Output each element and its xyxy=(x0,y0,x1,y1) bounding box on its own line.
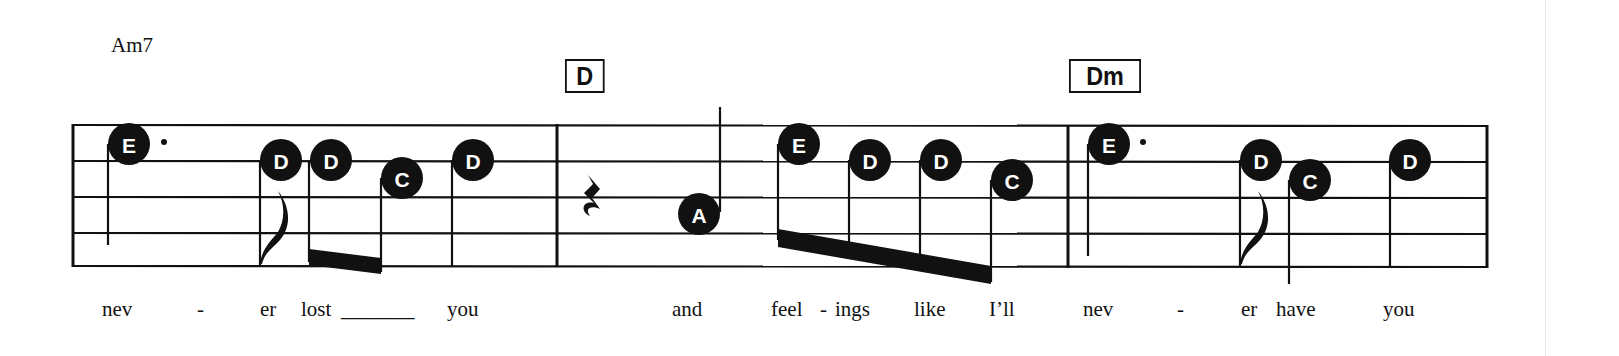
lyric-syllable: you xyxy=(1383,297,1415,322)
lyric-syllable: you xyxy=(447,297,479,322)
svg-text:D: D xyxy=(933,150,948,173)
lyric-hyphen: - xyxy=(820,297,827,322)
eighth-flag-2 xyxy=(1240,191,1268,264)
note-head-d: D xyxy=(1389,139,1431,181)
note-stems xyxy=(108,107,1390,284)
dot-1 xyxy=(161,139,167,145)
lyric-hyphen: - xyxy=(1177,297,1184,322)
note-head-c: C xyxy=(381,157,423,199)
note-head-d: D xyxy=(920,139,962,181)
lyric-syllable: feel xyxy=(771,297,802,322)
lyric-hyphen: - xyxy=(197,297,204,322)
quarter-rest-icon xyxy=(584,175,600,216)
lyric-syllable: ings xyxy=(835,297,870,322)
note-head-c: C xyxy=(1289,159,1331,201)
note-heads: E D D C D A E D D C E D C D xyxy=(108,123,1431,235)
lyric-syllable: and xyxy=(672,297,702,322)
note-head-e: E xyxy=(778,123,820,165)
svg-text:D: D xyxy=(1253,150,1268,173)
beam-2 xyxy=(778,229,991,284)
svg-text:E: E xyxy=(792,134,806,157)
lyric-syllable: like xyxy=(914,297,946,322)
note-head-d: D xyxy=(452,139,494,181)
svg-text:E: E xyxy=(122,134,136,157)
svg-text:C: C xyxy=(1302,170,1317,193)
svg-text:D: D xyxy=(862,150,877,173)
svg-text:D: D xyxy=(465,150,480,173)
svg-text:D: D xyxy=(323,150,338,173)
note-head-a: A xyxy=(678,193,720,235)
note-head-e: E xyxy=(1088,123,1130,165)
note-head-e: E xyxy=(108,123,150,165)
note-head-d: D xyxy=(1240,139,1282,181)
svg-text:A: A xyxy=(691,204,706,227)
lyric-syllable: lost xyxy=(301,297,331,322)
svg-text:D: D xyxy=(1402,150,1417,173)
lyric-extender: _______ xyxy=(341,297,415,322)
music-staff: E D D C D A E D D C E D C D xyxy=(0,0,1619,356)
note-head-d: D xyxy=(849,139,891,181)
dot-2 xyxy=(1140,139,1146,145)
lyric-syllable: er xyxy=(1241,297,1257,322)
lyric-syllable: er xyxy=(260,297,276,322)
svg-text:C: C xyxy=(1004,170,1019,193)
svg-text:E: E xyxy=(1102,134,1116,157)
eighth-flag-1 xyxy=(260,191,288,264)
lyric-syllable: nev xyxy=(1083,297,1113,322)
note-head-d: D xyxy=(260,139,302,181)
lyric-syllable: nev xyxy=(102,297,132,322)
note-head-d: D xyxy=(310,139,352,181)
note-head-c: C xyxy=(991,159,1033,201)
lyric-syllable: I’ll xyxy=(989,297,1015,322)
svg-text:C: C xyxy=(394,168,409,191)
svg-text:D: D xyxy=(273,150,288,173)
beam-1 xyxy=(309,249,381,274)
lyric-syllable: have xyxy=(1276,297,1316,322)
